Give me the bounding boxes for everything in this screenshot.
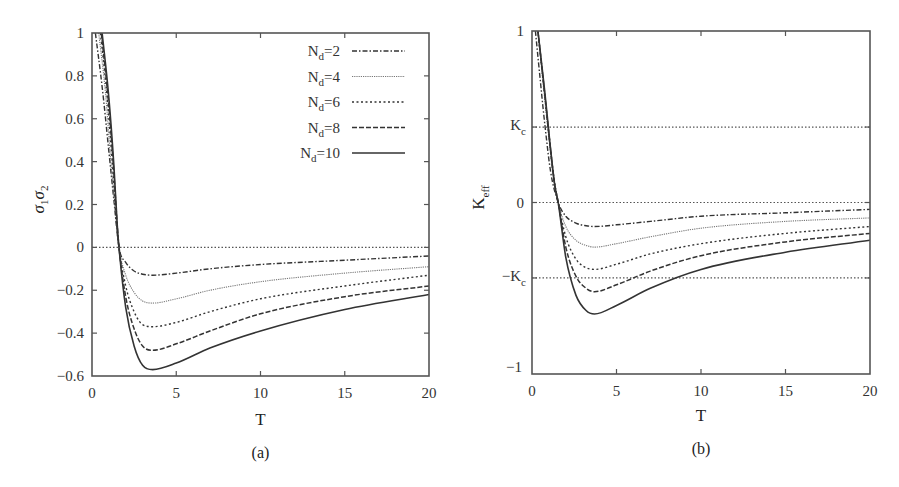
x-tick-label: 10 <box>253 385 268 401</box>
series-line <box>535 31 870 227</box>
y-tick-label: −1 <box>506 359 522 375</box>
legend-label: Nd=4 <box>308 69 341 88</box>
panel-caption: (b) <box>692 440 711 458</box>
y-tick-label: 0.8 <box>65 68 84 84</box>
series-line <box>538 31 870 314</box>
legend-label: Nd=8 <box>308 120 340 139</box>
series-line <box>100 33 429 327</box>
series-line <box>99 33 429 303</box>
y-tick-label: 0.4 <box>65 154 84 170</box>
y-tick-label: −Kc <box>502 268 526 288</box>
y-tick-label: −0.6 <box>57 368 85 384</box>
x-tick-label: 5 <box>613 383 621 399</box>
legend-label: Nd=10 <box>300 145 340 164</box>
x-axis-title: T <box>255 410 266 429</box>
x-tick-label: 0 <box>88 385 96 401</box>
x-tick-label: 20 <box>863 383 878 399</box>
y-tick-label: 0.2 <box>65 197 84 213</box>
x-tick-label: 15 <box>778 383 793 399</box>
x-tick-label: 5 <box>173 385 181 401</box>
panel-b-plot: 051015201Kc0−Kc−1TKeff(b) <box>469 23 878 458</box>
series-line <box>538 31 870 247</box>
x-axis-title: T <box>696 406 707 425</box>
y-tick-label: Kc <box>510 117 526 137</box>
series-line <box>102 33 429 370</box>
legend-label: Nd=6 <box>308 94 341 113</box>
x-tick-label: 15 <box>337 385 352 401</box>
legend-label: Nd=2 <box>308 43 340 62</box>
y-tick-label: 0.6 <box>65 111 84 127</box>
y-tick-label: 1 <box>517 23 525 39</box>
x-tick-label: 20 <box>422 385 437 401</box>
y-tick-label: 0 <box>77 239 85 255</box>
series-line <box>95 33 429 275</box>
y-tick-label: 0 <box>517 195 525 211</box>
panel-a-plot: 0510152010.80.60.40.20−0.2−0.4−0.6Tσ1σ2(… <box>29 25 437 462</box>
y-axis-title: σ1σ2 <box>29 186 50 214</box>
series-line <box>538 31 870 269</box>
x-tick-label: 10 <box>694 383 709 399</box>
panel-caption: (a) <box>252 444 270 462</box>
y-tick-label: −0.2 <box>57 282 84 298</box>
y-tick-label: 1 <box>77 25 85 41</box>
legend: Nd=2Nd=4Nd=6Nd=8Nd=10 <box>300 43 405 164</box>
series-line <box>538 31 870 292</box>
y-axis-title: Keff <box>469 185 491 210</box>
figure: 0510152010.80.60.40.20−0.2−0.4−0.6Tσ1σ2(… <box>0 0 899 487</box>
y-tick-label: −0.4 <box>57 325 85 341</box>
x-tick-label: 0 <box>528 383 536 399</box>
